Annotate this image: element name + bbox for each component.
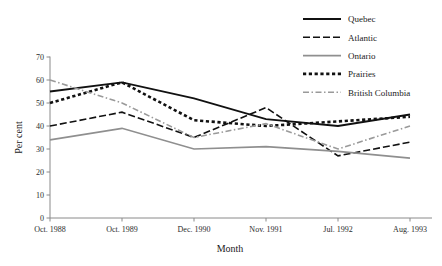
series-line-ontario [50,128,410,158]
y-axis-title: Per cent [13,121,24,154]
x-tick-label: Dec. 1990 [178,225,211,234]
chart-canvas: 010203040506070Per centOct. 1988Oct. 198… [0,0,442,266]
axis-spines [50,57,432,219]
y-tick-label: 40 [36,122,44,131]
y-tick-label: 70 [36,53,44,62]
y-tick-label: 10 [36,191,44,200]
x-axis-title: Month [217,243,244,254]
x-tick-label: Nov. 1991 [249,225,282,234]
legend-label-quebec: Quebec [348,14,375,24]
line-chart-figure: 010203040506070Per centOct. 1988Oct. 198… [0,0,442,266]
x-tick-label: Jul. 1992 [323,225,352,234]
x-tick-label: Aug. 1993 [393,225,427,234]
y-tick-label: 0 [40,214,44,223]
legend-label-atlantic: Atlantic [348,33,377,43]
legend-label-british-columbia: British Columbia [348,88,410,98]
y-tick-label: 30 [36,145,44,154]
y-tick-label: 20 [36,168,44,177]
y-tick-label: 50 [36,99,44,108]
legend-label-ontario: Ontario [348,51,376,61]
y-tick-label: 60 [36,76,44,85]
x-tick-label: Oct. 1988 [34,225,66,234]
x-tick-label: Oct. 1989 [106,225,138,234]
legend-label-prairies: Prairies [348,69,376,79]
